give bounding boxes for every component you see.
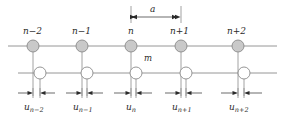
dimension-a-group xyxy=(131,6,181,23)
shaded-atom xyxy=(175,40,187,52)
displacement-label-u-n-plus-2: un+2 xyxy=(229,103,249,112)
dimension-a-arrowhead-left xyxy=(132,15,138,19)
displacement-label-u-n: un xyxy=(126,103,136,112)
lattice-constant-label: a xyxy=(150,5,155,14)
atom-index-label-n-plus-1: n+1 xyxy=(170,27,189,36)
open-atom xyxy=(81,67,93,79)
atom-index-label-n-minus-2: n−2 xyxy=(23,27,42,36)
shaded-atom xyxy=(125,40,137,52)
lattice-diagram: a n−2 n−1 n n+1 n+2 m un−2 un−1 un un+1 … xyxy=(0,0,285,118)
displacement-label-u-n-minus-2: un−2 xyxy=(24,103,44,112)
displacement-arrows xyxy=(18,91,262,95)
atom-index-label-n: n xyxy=(128,27,134,36)
atom-index-label-n-plus-2: n+2 xyxy=(227,27,246,36)
dimension-a-arrowhead-right xyxy=(175,15,181,19)
open-atom xyxy=(180,67,192,79)
vertical-connectors-bottom xyxy=(40,73,244,96)
displacement-label-u-n-plus-1: un+1 xyxy=(172,103,192,112)
open-atom xyxy=(34,67,46,79)
atom-index-label-n-minus-1: n−1 xyxy=(72,27,91,36)
open-atom xyxy=(130,67,142,79)
mass-label: m xyxy=(144,54,152,63)
shaded-atom xyxy=(76,40,88,52)
open-atom xyxy=(238,67,250,79)
shaded-atom xyxy=(27,40,39,52)
diagram-canvas xyxy=(0,0,285,118)
shaded-atom xyxy=(232,40,244,52)
displacement-label-u-n-minus-1: un−1 xyxy=(73,103,93,112)
